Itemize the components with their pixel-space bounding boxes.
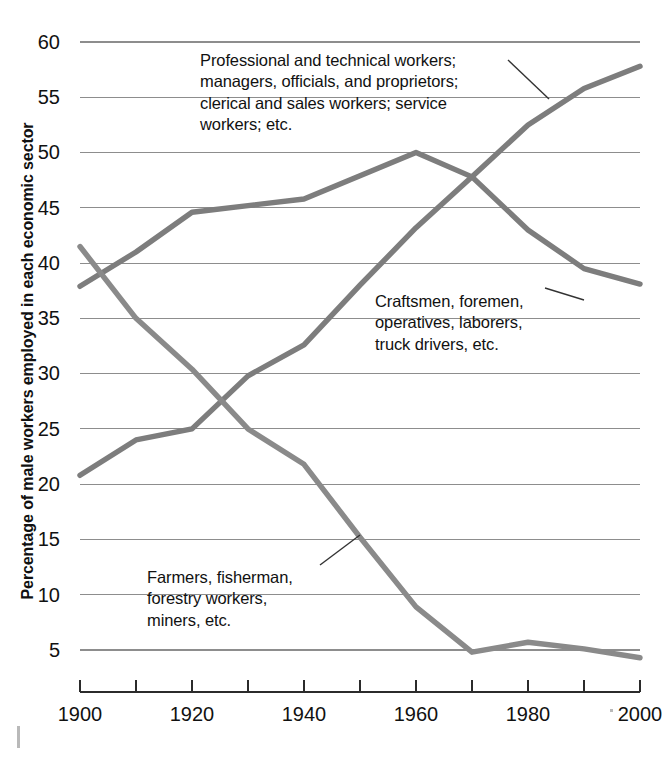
annotation-craftsmen: Craftsmen, foremen, operatives, laborers… <box>375 291 605 355</box>
annotation-farmers: Farmers, fisherman, forestry workers, mi… <box>147 567 372 631</box>
x-axis-line <box>80 680 640 692</box>
scan-artifact-right <box>610 709 613 712</box>
scan-artifact-left <box>17 726 20 748</box>
annotation-professional: Professional and technical workers; mana… <box>200 50 530 136</box>
